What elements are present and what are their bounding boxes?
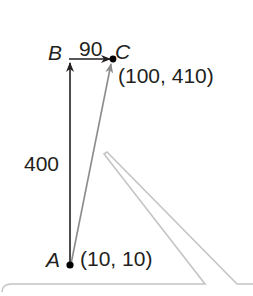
point-c-label: C <box>115 41 130 62</box>
point-a-coordinates: (10, 10) <box>80 248 152 269</box>
vector-ac-resultant-arrow <box>71 64 111 264</box>
segment-bc-length: 90 <box>79 38 102 59</box>
point-a-dot <box>66 261 73 268</box>
point-a-label: A <box>46 249 60 270</box>
point-b-label: B <box>48 42 62 63</box>
segment-ab-length: 400 <box>24 153 59 174</box>
point-c-coordinates: (100, 410) <box>118 65 214 86</box>
